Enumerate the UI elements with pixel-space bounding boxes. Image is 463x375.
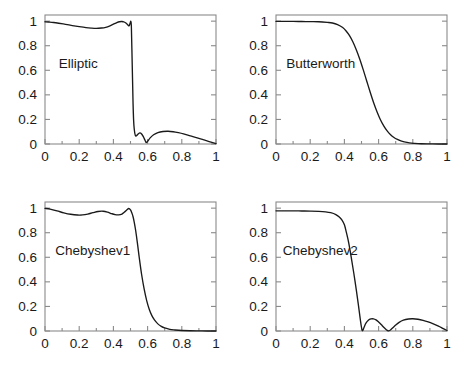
- x-tick-label: 0.6: [138, 149, 157, 164]
- x-tick-label: 0: [272, 336, 280, 351]
- y-tick-label: 0.6: [249, 63, 268, 78]
- panel-label-chebyshev1: Chebyshev1: [55, 243, 130, 258]
- y-tick-label: 1: [29, 201, 37, 216]
- x-tick-label: 0.8: [172, 336, 191, 351]
- y-tick-label: 0.8: [18, 38, 37, 53]
- x-tick-label: 1: [443, 336, 451, 351]
- plot-frame: [276, 202, 447, 331]
- y-tick-label: 0.2: [249, 112, 268, 127]
- y-tick-label: 0.2: [18, 299, 37, 314]
- y-tick-label: 1: [29, 14, 37, 29]
- x-tick-label: 0.6: [369, 149, 388, 164]
- response-curve: [276, 211, 447, 331]
- x-tick-label: 0: [41, 336, 49, 351]
- x-tick-label: 0.2: [301, 149, 320, 164]
- x-tick-label: 0.6: [138, 336, 157, 351]
- x-tick-label: 0.8: [172, 149, 191, 164]
- x-tick-label: 0.2: [70, 336, 89, 351]
- y-tick-label: 0.4: [249, 274, 268, 289]
- y-tick-label: 0: [260, 137, 268, 152]
- chart-panel-chebyshev2: 00.20.40.60.8100.20.40.60.81Chebyshev2: [231, 187, 463, 375]
- y-tick-label: 0: [260, 324, 268, 339]
- y-tick-label: 1: [260, 201, 268, 216]
- x-tick-label: 0.2: [301, 336, 320, 351]
- y-tick-label: 0.8: [18, 225, 37, 240]
- y-tick-label: 0.8: [249, 38, 268, 53]
- x-tick-label: 0.2: [70, 149, 89, 164]
- response-curve: [45, 208, 216, 331]
- x-tick-label: 0.4: [104, 149, 123, 164]
- x-tick-label: 0.8: [403, 336, 422, 351]
- y-tick-label: 0.6: [249, 250, 268, 265]
- plot-frame: [45, 202, 216, 331]
- y-tick-label: 0.4: [18, 87, 37, 102]
- y-tick-label: 0.2: [18, 112, 37, 127]
- x-tick-label: 0.4: [104, 336, 123, 351]
- x-tick-label: 0.6: [369, 336, 388, 351]
- y-tick-label: 0.8: [249, 225, 268, 240]
- x-tick-label: 0.4: [335, 149, 354, 164]
- panel-label-elliptic: Elliptic: [59, 56, 98, 71]
- panel-label-chebyshev2: Chebyshev2: [283, 243, 358, 258]
- panel-label-butterworth: Butterworth: [286, 56, 355, 71]
- plot-frame: [45, 15, 216, 144]
- x-tick-label: 0: [272, 149, 280, 164]
- response-curve: [45, 21, 216, 143]
- response-curve: [276, 21, 447, 144]
- y-tick-label: 0: [29, 324, 37, 339]
- y-tick-label: 0.4: [18, 274, 37, 289]
- y-tick-label: 0.4: [249, 87, 268, 102]
- y-tick-label: 0.6: [18, 63, 37, 78]
- chart-panel-butterworth: 00.20.40.60.8100.20.40.60.81Butterworth: [231, 0, 463, 188]
- y-tick-label: 0.2: [249, 299, 268, 314]
- x-tick-label: 1: [443, 149, 451, 164]
- y-tick-label: 0: [29, 137, 37, 152]
- chart-panel-chebyshev1: 00.20.40.60.8100.20.40.60.81Chebyshev1: [0, 187, 232, 375]
- x-tick-label: 1: [212, 149, 220, 164]
- y-tick-label: 0.6: [18, 250, 37, 265]
- x-tick-label: 0: [41, 149, 49, 164]
- y-tick-label: 1: [260, 14, 268, 29]
- filter-response-figure: 00.20.40.60.8100.20.40.60.81Elliptic00.2…: [0, 0, 463, 375]
- chart-panel-elliptic: 00.20.40.60.8100.20.40.60.81Elliptic: [0, 0, 232, 188]
- x-tick-label: 0.8: [403, 149, 422, 164]
- x-tick-label: 0.4: [335, 336, 354, 351]
- x-tick-label: 1: [212, 336, 220, 351]
- plot-frame: [276, 15, 447, 144]
